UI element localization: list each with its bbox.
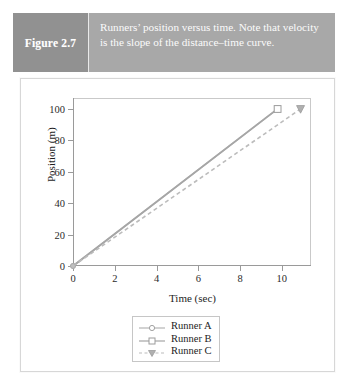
legend-label-runner-a: Runner A xyxy=(171,320,212,332)
legend-item-runner-b: Runner B xyxy=(138,333,212,346)
figure-number-cell: Figure 2.7 xyxy=(13,13,89,72)
legend-label-runner-b: Runner B xyxy=(171,333,212,345)
series-end-marker xyxy=(274,106,281,113)
x-tick-label: 0 xyxy=(70,273,75,284)
legend-key-runner-c xyxy=(138,345,166,357)
y-tick-label: 20 xyxy=(55,229,66,240)
y-tick-label: 80 xyxy=(55,135,66,146)
x-tick-label: 4 xyxy=(154,273,159,284)
series-lines xyxy=(73,98,311,266)
series-runner-c xyxy=(71,106,305,269)
legend-key-runner-b xyxy=(138,333,166,345)
figure-caption-band: Figure 2.7 Runners’ position versus time… xyxy=(13,13,335,72)
x-tick-label: 2 xyxy=(112,273,117,284)
x-tick-label: 10 xyxy=(277,273,288,284)
x-tick-mark xyxy=(240,266,241,271)
legend-item-runner-c: Runner C xyxy=(138,345,212,358)
x-tick-mark xyxy=(282,266,283,271)
plot-panel: Position (m) Time (sec) 020406080100 024… xyxy=(20,78,335,372)
figure-caption-cell: Runners’ position versus time. Note that… xyxy=(89,13,335,72)
x-tick-label: 6 xyxy=(196,273,201,284)
x-tick-mark xyxy=(115,266,116,271)
series-start-marker xyxy=(71,264,76,269)
legend-item-runner-a: Runner A xyxy=(138,320,212,333)
y-tick-label: 40 xyxy=(55,198,66,209)
figure-caption-text: Runners’ position versus time. Note that… xyxy=(100,20,325,50)
series-runner-b xyxy=(71,106,281,269)
series-end-marker xyxy=(297,106,305,114)
figure-container: Figure 2.7 Runners’ position versus time… xyxy=(0,0,351,389)
figure-number-label: Figure 2.7 xyxy=(25,37,77,49)
x-axis-title: Time (sec) xyxy=(21,292,334,304)
x-tick-label: 8 xyxy=(237,273,242,284)
x-tick-mark xyxy=(157,266,158,271)
plot-axes: 020406080100 0246810 xyxy=(73,98,311,266)
y-tick-label: 60 xyxy=(55,166,66,177)
x-tick-mark xyxy=(198,266,199,271)
legend-label-runner-c: Runner C xyxy=(171,345,212,357)
chart-legend: Runner A Runner B Runner xyxy=(132,316,220,362)
y-tick-label: 100 xyxy=(49,103,65,114)
y-tick-label: 0 xyxy=(60,261,65,272)
legend-key-runner-a xyxy=(138,320,166,332)
